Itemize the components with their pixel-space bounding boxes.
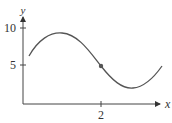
y-axis-label: y [20, 4, 26, 16]
curve [29, 33, 162, 88]
y-tick-label-5: 5 [10, 58, 16, 72]
x-axis-label: x [164, 97, 171, 111]
y-tick-label-10: 10 [4, 21, 16, 35]
highlight-point [99, 64, 103, 68]
x-tick-label-2: 2 [98, 108, 104, 122]
chart: 10 5 2 y x [0, 0, 172, 123]
